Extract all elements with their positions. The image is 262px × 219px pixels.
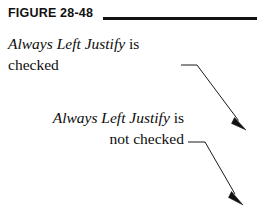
callout-not-checked-line-2: not checked (28, 128, 184, 149)
callout-not-checked-roman: is (170, 109, 184, 126)
callout-checked-italic: Always Left Justify (8, 35, 125, 52)
figure-header-rule (103, 17, 257, 20)
callout-not-checked-line-1: Always Left Justify is (28, 107, 184, 128)
figure-header: FIGURE 28-48 (0, 0, 262, 28)
arrow-not-checked-icon (188, 142, 243, 205)
arrow-checked-icon (181, 65, 246, 130)
callout-checked-line-2: checked (8, 54, 139, 75)
figure-diagram: FIGURE 28-48 Always Left Justify is chec… (0, 0, 262, 219)
callout-not-checked-italic: Always Left Justify (53, 109, 170, 126)
callout-checked-roman: is (125, 35, 139, 52)
callout-checked-line-1: Always Left Justify is (8, 33, 139, 54)
callout-not-checked: Always Left Justify is not checked (28, 107, 184, 149)
callout-checked: Always Left Justify is checked (8, 33, 139, 75)
figure-label: FIGURE 28-48 (8, 7, 93, 20)
